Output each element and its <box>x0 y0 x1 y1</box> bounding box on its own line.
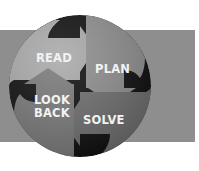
read-label: READ <box>36 51 72 65</box>
solve-label: SOLVE <box>83 113 125 127</box>
back-label: BACK <box>34 106 71 120</box>
look-label: LOOK <box>34 93 71 107</box>
cycle-diagram: READ PLAN LOOK BACK SOLVE <box>0 0 199 171</box>
plan-label: PLAN <box>95 62 130 76</box>
sphere-shading <box>9 15 151 157</box>
